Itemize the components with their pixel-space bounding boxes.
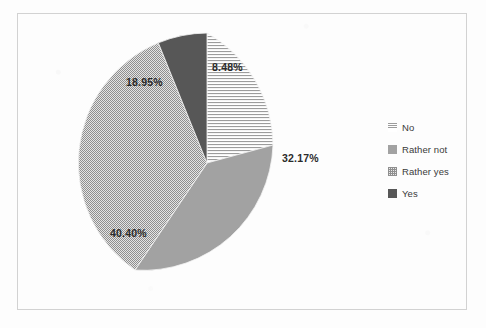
legend-item-rather-yes[interactable]: Rather yes bbox=[388, 160, 474, 182]
legend-item-yes[interactable]: Yes bbox=[388, 182, 474, 204]
solid-dark-gray-swatch-icon bbox=[388, 189, 397, 198]
legend-label-rather-yes: Rather yes bbox=[402, 166, 449, 177]
legend-item-rather-not[interactable]: Rather not bbox=[388, 138, 474, 160]
chart-legend: No Rather not Rather yes Yes bbox=[388, 116, 474, 204]
chart-screenshot: 8.48% 32.17% 40.40% 18.95% No Rather not… bbox=[0, 0, 486, 328]
solid-mid-gray-swatch-icon bbox=[388, 145, 397, 154]
legend-label-no: No bbox=[402, 122, 414, 133]
legend-label-rather-not: Rather not bbox=[402, 144, 447, 155]
horizontal-lines-swatch-icon bbox=[388, 123, 397, 132]
fine-dots-swatch-icon bbox=[388, 167, 397, 176]
legend-label-yes: Yes bbox=[402, 188, 418, 199]
pie-slice-no bbox=[207, 33, 273, 163]
legend-item-no[interactable]: No bbox=[388, 116, 474, 138]
slice-label-no: 8.48% bbox=[212, 61, 243, 73]
slice-label-rather-yes: 40.40% bbox=[110, 227, 147, 239]
slice-label-yes: 18.95% bbox=[126, 76, 163, 88]
slice-label-rather-not: 32.17% bbox=[282, 152, 319, 164]
